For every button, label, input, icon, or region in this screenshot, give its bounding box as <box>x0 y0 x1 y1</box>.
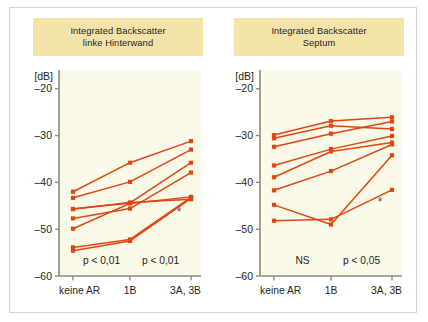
y-axis-tick-label: –50 <box>34 223 52 235</box>
x-axis-tick-label: 3A, 3B <box>371 285 402 296</box>
data-point-marker <box>71 190 75 194</box>
p-value-annotation: p < 0,01 <box>83 255 120 266</box>
plot-area-left: [dB]–20–30–40–50–60keine AR1B3A, 3Bp < 0… <box>15 62 211 312</box>
panel-title-right: Integrated Backscatter Septum <box>234 18 404 56</box>
y-axis-tick-label: –40 <box>34 176 52 188</box>
data-point-marker <box>272 163 276 167</box>
line-chart-right: [dB]–20–30–40–50–60keine AR1B3A, 3BNSp <… <box>216 62 412 312</box>
p-value-annotation: p < 0,01 <box>142 255 179 266</box>
data-point-marker <box>128 239 132 243</box>
data-point-marker <box>189 139 193 143</box>
data-point-marker <box>189 161 193 165</box>
plot-background <box>59 70 201 276</box>
data-point-marker <box>390 142 394 146</box>
y-axis-unit-label: [dB] <box>34 70 53 82</box>
x-axis-tick-label: 1B <box>124 285 137 296</box>
p-value-annotation: p < 0,05 <box>343 255 380 266</box>
x-axis-tick-label: keine AR <box>260 285 301 296</box>
data-point-marker <box>71 249 75 253</box>
x-axis-tick-label: keine AR <box>59 285 100 296</box>
y-axis-tick-label: –30 <box>235 129 253 141</box>
panel-title-line-2: Septum <box>303 37 336 49</box>
data-point-marker <box>329 119 333 123</box>
data-point-marker <box>71 196 75 200</box>
data-point-marker <box>128 161 132 165</box>
figure-frame: Integrated Backscatter linke Hinterwand … <box>9 7 417 313</box>
chart-panel-right: Integrated Backscatter Septum [dB]–20–30… <box>216 8 412 312</box>
data-point-marker <box>390 134 394 138</box>
panel-title-line-1: Integrated Backscatter <box>271 25 366 37</box>
data-point-marker <box>390 115 394 119</box>
x-axis-tick-label: 3A, 3B <box>170 285 201 296</box>
data-point-marker <box>128 200 132 204</box>
data-point-marker <box>189 147 193 151</box>
data-point-marker <box>189 197 193 201</box>
data-point-marker <box>329 124 333 128</box>
data-point-marker <box>390 188 394 192</box>
y-axis-tick-label: –50 <box>235 223 253 235</box>
data-point-marker <box>329 217 333 221</box>
data-point-marker <box>71 227 75 231</box>
data-point-marker <box>390 127 394 131</box>
data-point-marker <box>71 216 75 220</box>
p-value-annotation: NS <box>295 255 309 266</box>
data-point-marker <box>390 119 394 123</box>
data-point-marker <box>329 169 333 173</box>
data-point-marker <box>390 153 394 157</box>
data-point-marker <box>272 175 276 179</box>
data-point-marker <box>128 180 132 184</box>
line-chart-left: [dB]–20–30–40–50–60keine AR1B3A, 3Bp < 0… <box>15 62 211 312</box>
y-axis-tick-label: –60 <box>235 270 253 282</box>
y-axis-tick-label: –30 <box>34 129 52 141</box>
y-axis-tick-label: –20 <box>34 82 52 94</box>
data-point-marker <box>71 207 75 211</box>
panel-title-line-1: Integrated Backscatter <box>70 25 165 37</box>
chart-panel-left: Integrated Backscatter linke Hinterwand … <box>15 8 211 312</box>
y-axis-tick-label: –20 <box>235 82 253 94</box>
panel-title-line-2: linke Hinterwand <box>83 37 153 49</box>
data-point-marker <box>329 132 333 136</box>
y-axis-tick-label: –60 <box>34 270 52 282</box>
data-point-marker <box>189 170 193 174</box>
data-point-marker <box>272 203 276 207</box>
data-point-marker <box>272 188 276 192</box>
significance-star: * <box>378 195 383 209</box>
y-axis-tick-label: –40 <box>235 176 253 188</box>
x-axis-tick-label: 1B <box>325 285 338 296</box>
data-point-marker <box>329 222 333 226</box>
plot-area-right: [dB]–20–30–40–50–60keine AR1B3A, 3BNSp <… <box>216 62 412 312</box>
data-point-marker <box>272 136 276 140</box>
data-point-marker <box>272 145 276 149</box>
data-point-marker <box>128 206 132 210</box>
panel-title-left: Integrated Backscatter linke Hinterwand <box>33 18 203 56</box>
y-axis-unit-label: [dB] <box>235 70 254 82</box>
significance-star: * <box>177 205 182 219</box>
data-point-marker <box>272 219 276 223</box>
data-point-marker <box>329 149 333 153</box>
